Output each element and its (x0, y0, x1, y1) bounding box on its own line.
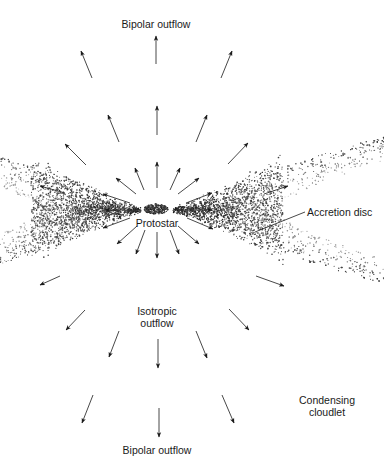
outflow-arrow-icon (65, 144, 86, 165)
outflow-arrow-icon (178, 178, 199, 194)
label-cloudlet-line1: Condensing (299, 394, 355, 406)
outflow-arrow-icon (135, 168, 144, 190)
outflow-arrow-icon (82, 395, 93, 423)
outflow-arrow-icon (228, 143, 248, 164)
outflow-arrow-icon (221, 51, 232, 78)
outflow-arrow-icon (40, 276, 60, 285)
outflow-arrow-icon (222, 395, 234, 423)
protostar-core (144, 203, 169, 214)
outflow-arrow-icon (170, 230, 179, 254)
outflow-arrow-icon (136, 230, 145, 254)
outflow-arrow-icon (256, 276, 284, 286)
outflow-arrow-icon (196, 331, 207, 358)
label-cloudlet-line2: cloudlet (299, 406, 355, 418)
outflow-arrow-icon (109, 331, 119, 357)
label-bipolar-outflow-bottom: Bipolar outflow (123, 444, 192, 456)
label-isotropic-line2: outflow (137, 317, 177, 329)
label-protostar: Protostar (136, 217, 179, 229)
label-bipolar-outflow-top: Bipolar outflow (122, 18, 191, 30)
outflow-arrow-icon (178, 226, 199, 244)
outflow-arrow-icon (103, 218, 130, 228)
label-isotropic-line1: Isotropic (137, 305, 177, 317)
outflow-arrow-icon (66, 310, 85, 330)
outflow-arrow-icon (116, 178, 136, 194)
outflow-arrow-icon (117, 226, 137, 244)
outflow-arrow-icon (229, 309, 249, 330)
outflow-arrow-icon (81, 51, 92, 78)
outflow-arrow-icon (170, 168, 180, 190)
label-isotropic-outflow: Isotropic outflow (137, 305, 177, 329)
label-accretion-disc: Accretion disc (307, 206, 372, 218)
outflow-arrow-icon (196, 115, 207, 142)
label-condensing-cloudlet: Condensing cloudlet (299, 394, 355, 418)
outflow-arrow-icon (108, 115, 119, 142)
